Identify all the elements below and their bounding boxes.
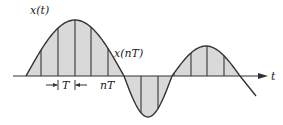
sampled-signal-diagram: x(t) x(nT) T nT t [0, 0, 283, 125]
signal-label: x(t) [30, 4, 49, 17]
axis-arrow-icon [258, 73, 268, 79]
sample-time-label: nT [100, 79, 116, 92]
samples-label: x(nT) [114, 47, 143, 60]
period-label: T [62, 79, 71, 92]
axis-label: t [271, 70, 276, 83]
